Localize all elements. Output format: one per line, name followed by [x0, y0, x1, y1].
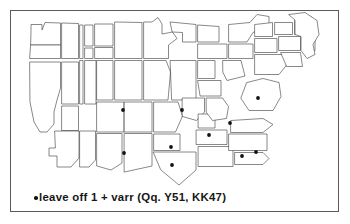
map-caption: leave off 1 + varr (Qq. Y51, KK47)	[34, 189, 324, 207]
state-wyoming-west	[85, 25, 93, 46]
state-south-carolina	[197, 130, 228, 145]
state-atlantic-coast-strip	[235, 153, 269, 165]
state-louisiana	[154, 152, 197, 185]
state-virginia	[198, 81, 221, 97]
state-nevada	[62, 62, 79, 104]
state-arkansas	[125, 134, 153, 173]
state-west-virginia	[207, 98, 229, 121]
state-maine-south	[275, 23, 293, 35]
state-gulf-coast-strip	[231, 119, 273, 133]
state-arizona	[62, 106, 79, 131]
marker-dot	[170, 163, 174, 167]
state-north-dakota	[95, 24, 113, 46]
state-idaho	[62, 23, 79, 59]
state-outlines	[30, 13, 319, 186]
state-missouri	[125, 102, 153, 132]
state-connecticut-ri	[255, 39, 277, 53]
marker-dot	[121, 108, 125, 112]
state-new-mexico	[85, 61, 96, 105]
state-washington	[31, 23, 61, 46]
state-maryland-delaware	[223, 61, 245, 81]
state-tennessee	[154, 102, 183, 132]
state-mississippi	[154, 134, 180, 151]
state-oklahoma	[97, 134, 122, 171]
figure-page: leave off 1 + varr (Qq. Y51, KK47)	[0, 0, 350, 224]
state-alabama-georgia	[199, 147, 234, 167]
marker-dot	[254, 150, 258, 154]
state-south-dakota	[95, 48, 113, 59]
state-kansas	[97, 102, 124, 132]
marker-dot	[207, 133, 211, 137]
marker-dot	[228, 121, 232, 125]
marker-dot	[240, 154, 244, 158]
state-maine-coast	[279, 37, 301, 51]
state-baja-region	[80, 131, 96, 167]
state-ontario-border	[198, 25, 219, 42]
state-oregon	[30, 45, 61, 59]
state-vermont-nh	[229, 44, 253, 59]
state-california	[30, 62, 61, 132]
state-montana-west	[80, 25, 83, 59]
state-colorado-west	[85, 48, 93, 59]
marker-dot	[180, 108, 184, 112]
state-new-york	[198, 44, 227, 59]
state-illinois	[144, 61, 171, 101]
state-texas-panhandle-strip	[229, 134, 267, 151]
dot-icon	[34, 196, 38, 200]
marker-dot	[122, 151, 126, 155]
state-southern-california-coast	[49, 131, 79, 167]
state-massachusetts	[255, 23, 273, 37]
state-iowa	[115, 61, 142, 101]
state-minnesota	[115, 22, 142, 59]
state-new-jersey	[255, 55, 287, 75]
state-florida	[241, 79, 281, 111]
state-utah	[80, 61, 83, 105]
state-maine-outline	[289, 13, 319, 59]
state-nebraska	[97, 61, 113, 101]
state-indiana-ohio	[171, 61, 197, 101]
state-pennsylvania	[198, 61, 215, 79]
marker-dot	[169, 145, 173, 149]
caption-text: leave off 1 + varr (Qq. Y51, KK47)	[39, 192, 226, 203]
marker-dot	[256, 96, 260, 100]
